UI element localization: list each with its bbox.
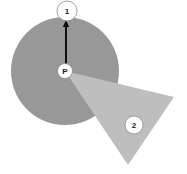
center-point-disc — [58, 64, 73, 79]
callout-two-disc — [125, 116, 143, 134]
callout-one-disc — [57, 1, 77, 21]
geometry-diagram: 1 P 2 — [0, 0, 187, 174]
figure-canvas: 1 P 2 — [0, 0, 187, 174]
center-point-p: P — [58, 64, 73, 79]
callout-shape-one: 1 — [57, 1, 77, 21]
callout-shape-two: 2 — [125, 116, 143, 134]
